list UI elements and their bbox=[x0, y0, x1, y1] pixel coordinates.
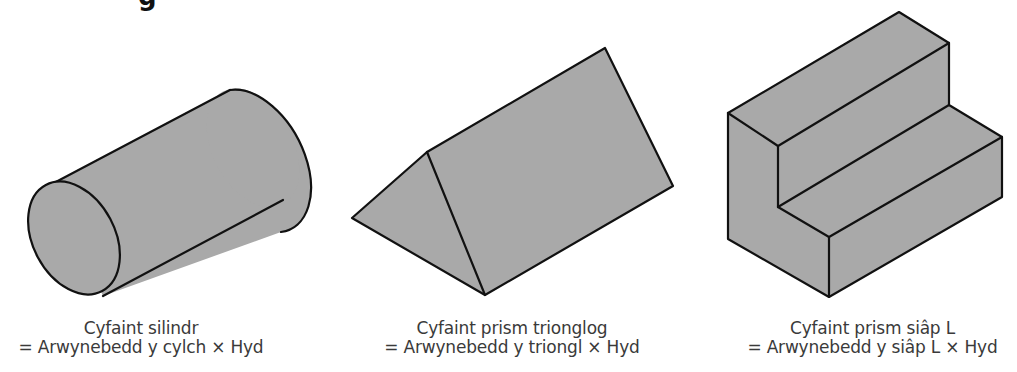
cylinder-shape bbox=[10, 73, 319, 311]
cylinder-title: Cyfaint silindr bbox=[0, 319, 282, 338]
triangular-prism-shape bbox=[352, 48, 673, 295]
prism-volume-diagram bbox=[0, 0, 1017, 372]
l-prism-formula: = Arwynebedd y siâp L × Hyd bbox=[728, 338, 1017, 357]
l-prism-caption: Cyfaint prism siâp L = Arwynebedd y siâp… bbox=[728, 319, 1017, 357]
triangular-prism-title: Cyfaint prism trionglog bbox=[362, 319, 662, 338]
triangular-prism-caption: Cyfaint prism trionglog = Arwynebedd y t… bbox=[362, 319, 662, 357]
triangular-prism-formula: = Arwynebedd y triongl × Hyd bbox=[362, 338, 662, 357]
l-prism-shape bbox=[728, 12, 1002, 297]
cylinder-caption: Cyfaint silindr = Arwynebedd y cylch × H… bbox=[0, 319, 282, 357]
l-prism-title: Cyfaint prism siâp L bbox=[728, 319, 1017, 338]
cylinder-formula: = Arwynebedd y cylch × Hyd bbox=[0, 338, 282, 357]
